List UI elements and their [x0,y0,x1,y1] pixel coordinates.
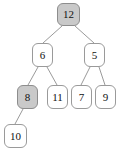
tree-edge-n6-n11 [47,67,57,85]
tree-node-9[interactable]: 9 [95,85,116,109]
tree-edge-n8-n10 [15,109,23,124]
tree-node-10[interactable]: 10 [4,124,27,148]
tree-node-label: 8 [25,91,31,102]
tree-node-12[interactable]: 12 [57,3,80,26]
tree-node-label: 12 [63,9,74,20]
tree-node-label: 10 [10,130,21,141]
tree-node-label: 11 [52,91,63,102]
tree-edge-n5-n9 [99,67,105,85]
tree-node-6[interactable]: 6 [32,43,53,67]
tree-node-7[interactable]: 7 [71,85,92,109]
tree-node-11[interactable]: 11 [47,85,68,109]
tree-node-5[interactable]: 5 [84,43,105,67]
tree-node-label: 7 [79,91,85,102]
tree-edge-n5-n7 [81,67,90,85]
tree-edge-n12-n6 [43,26,62,43]
tree-edge-n6-n8 [28,67,38,85]
edge-group [15,26,105,124]
binary-tree-diagram: 12658117910 [0,0,119,153]
tree-node-label: 6 [40,49,46,60]
tree-node-label: 5 [92,49,98,60]
tree-node-8[interactable]: 8 [17,85,38,109]
tree-node-label: 9 [103,91,109,102]
tree-edge-n12-n5 [75,26,94,43]
